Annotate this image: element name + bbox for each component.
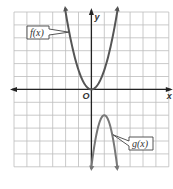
origin-label: O (82, 91, 89, 101)
g-left-arrow-icon (89, 166, 94, 171)
f-label: f(x) (30, 27, 45, 39)
g-right-arrow-icon (114, 166, 119, 171)
x-axis-label: x (166, 91, 173, 101)
x-axis-left-arrow-icon (10, 87, 17, 92)
y-axis-arrow-icon (89, 8, 94, 15)
coordinate-plane: yxOf(x)g(x) (0, 0, 173, 189)
f-left-arrow-icon (63, 6, 68, 11)
y-axis-label: y (93, 12, 100, 22)
g-label: g(x) (132, 138, 149, 150)
f-right-arrow-icon (114, 6, 119, 11)
